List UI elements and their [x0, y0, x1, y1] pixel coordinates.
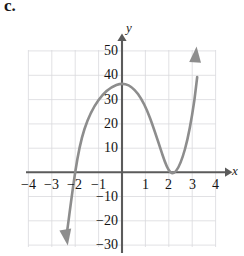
figure-container: c. — [0, 0, 244, 256]
y-tick-label: 30 — [90, 93, 118, 107]
x-tick-label: 4 — [207, 178, 224, 192]
x-tick-label: −4 — [16, 178, 41, 192]
x-tick-label: −3 — [39, 178, 64, 192]
y-tick-label: −30 — [84, 238, 118, 252]
x-tick-label: 2 — [160, 178, 177, 192]
y-axis-label: y — [126, 21, 132, 34]
cubic-function-graph — [0, 0, 244, 256]
y-tick-label: 40 — [90, 68, 118, 82]
part-label: c. — [4, 0, 16, 14]
y-tick-label: 50 — [90, 44, 118, 58]
y-tick-label: 10 — [90, 141, 118, 155]
curve-arrowhead-down — [59, 229, 71, 246]
x-tick-label: 3 — [184, 178, 201, 192]
x-tick-label: 1 — [137, 178, 154, 192]
curve-arrowhead-up — [189, 46, 201, 62]
curve-group — [59, 46, 201, 245]
y-tick-label: −20 — [84, 214, 118, 228]
y-tick-label: 20 — [90, 117, 118, 131]
x-axis-label: x — [232, 164, 238, 177]
y-tick-label: −10 — [84, 190, 118, 204]
cubic-curve — [66, 77, 197, 237]
axes — [26, 34, 233, 254]
